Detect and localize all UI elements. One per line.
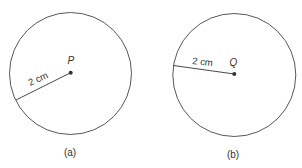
figure-a: P 2 cm (a) (10, 13, 132, 159)
center-label-q: Q (230, 57, 238, 68)
center-point-p (69, 71, 73, 75)
caption-b: (b) (227, 149, 239, 160)
radius-label-b: 2 cm (192, 55, 214, 68)
figure-b: Q 2 cm (b) (173, 14, 296, 161)
center-point-q (232, 72, 236, 76)
center-label-p: P (68, 55, 75, 66)
caption-a: (a) (64, 147, 76, 158)
